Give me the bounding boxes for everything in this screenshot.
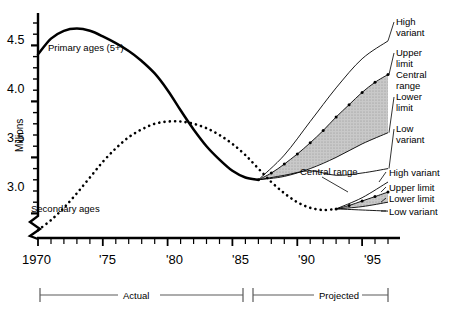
central-range-callout: Central range: [300, 166, 358, 177]
y-tick-label-3.5: 3.5: [7, 131, 24, 145]
bracket-label-projected: Projected: [316, 290, 362, 301]
secondary-series-label: Secondary ages: [31, 203, 100, 214]
legend-top-upper-limit: Upper limit: [396, 48, 422, 69]
legend-bottom-upper-limit: Upper limit: [389, 183, 434, 194]
y-tick-label-3.0: 3.0: [7, 180, 24, 194]
primary-series-label: Primary ages (5+): [48, 42, 124, 53]
chart-root: Millions 4.5 4.0 3.5 3.0 1970 '75 '80 '8…: [0, 0, 453, 327]
bracket-label-actual: Actual: [120, 290, 152, 301]
legend-top-central-range: Central range: [396, 70, 427, 91]
legend-top-lower-limit: Lower limit: [396, 92, 422, 113]
legend-bottom-high-variant: High variant: [389, 168, 440, 179]
legend-bottom-low-variant: Low variant: [389, 207, 438, 218]
legend-top-low-variant: Low variant: [396, 124, 425, 145]
x-tick-label-80: '80: [166, 252, 183, 267]
x-tick-label-90: '90: [298, 252, 315, 267]
x-tick-label-95: '95: [364, 252, 381, 267]
x-tick-label-85: '85: [232, 252, 249, 267]
legend-bottom-lower-limit: Lower limit: [389, 194, 434, 205]
x-tick-label-75: '75: [99, 252, 116, 267]
y-tick-label-4.0: 4.0: [7, 82, 24, 96]
legend-top-high-variant: High variant: [396, 17, 425, 38]
y-tick-label-4.5: 4.5: [7, 33, 24, 47]
x-tick-label-1970: 1970: [22, 252, 51, 267]
